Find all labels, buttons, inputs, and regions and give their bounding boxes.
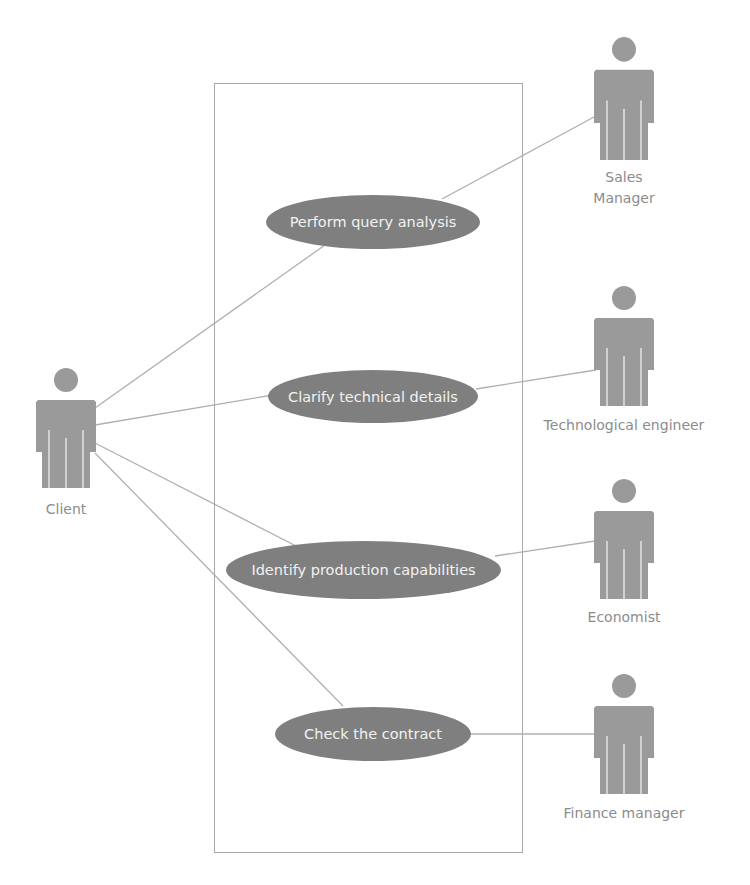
actor-label-technological-engineer: Technological engineer [524,415,724,436]
person-icon [594,35,654,160]
actor-label-line1: Sales [564,167,684,188]
usecase-label: Perform query analysis [290,214,457,230]
actor-label-finance-manager: Finance manager [534,803,714,824]
actor-client[interactable] [36,366,96,488]
usecase-check-the-contract[interactable]: Check the contract [275,707,471,761]
actor-technological-engineer[interactable] [594,284,654,406]
actor-label-line2: Manager [564,188,684,209]
person-icon [594,284,654,406]
actor-label-client: Client [36,499,96,520]
actor-sales-manager[interactable] [594,35,654,160]
actor-economist[interactable] [594,477,654,599]
actor-finance-manager[interactable] [594,672,654,794]
usecase-identify-production-capabilities[interactable]: Identify production capabilities [226,541,501,599]
use-case-diagram: Perform query analysis Clarify technical… [0,0,750,885]
actor-label-economist: Economist [564,607,684,628]
person-icon [594,672,654,794]
usecase-label: Check the contract [304,726,442,742]
usecase-clarify-technical-details[interactable]: Clarify technical details [268,370,478,423]
usecase-perform-query-analysis[interactable]: Perform query analysis [266,195,480,249]
person-icon [594,477,654,599]
person-icon [36,366,96,488]
actor-label-sales-manager: Sales Manager [564,167,684,209]
usecase-label: Clarify technical details [288,389,458,405]
usecase-label: Identify production capabilities [251,562,475,578]
